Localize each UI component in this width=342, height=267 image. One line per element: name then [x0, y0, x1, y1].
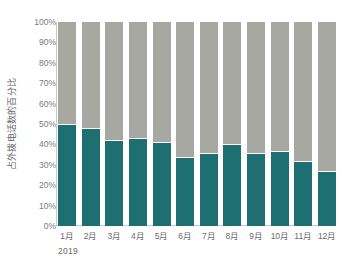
y-axis-tick-mark [52, 165, 56, 166]
bar-segment-teal[interactable] [200, 153, 218, 226]
x-axis-tick-label: 1月 [58, 229, 76, 243]
y-axis-tick-label: 60% [20, 99, 56, 109]
y-axis-tick-label: 80% [20, 58, 56, 68]
stacked-bar[interactable] [82, 22, 100, 226]
y-axis-tick-label: 10% [20, 201, 56, 211]
stacked-bar[interactable] [58, 22, 76, 226]
bar-segment-teal[interactable] [271, 151, 289, 226]
x-axis-tick-label: 3月 [105, 229, 123, 243]
bar-segment-gray[interactable] [105, 22, 123, 140]
truncated-title-strip [0, 0, 342, 8]
x-axis-tick-label: 2月 [82, 229, 100, 243]
x-axis-tick-labels: 1月2月3月4月5月6月7月8月9月10月11月12月 [58, 229, 336, 243]
bar-segment-teal[interactable] [247, 153, 265, 226]
stacked-bar[interactable] [176, 22, 194, 226]
bar-segment-gray[interactable] [129, 22, 147, 138]
y-axis-tick-label: 90% [20, 37, 56, 47]
stacked-bar[interactable] [153, 22, 171, 226]
y-axis-tick-labels: 0%10%20%30%40%50%60%70%80%90%100% [20, 22, 56, 226]
stacked-bar[interactable] [247, 22, 265, 226]
y-axis-tick-label: 70% [20, 78, 56, 88]
chart-container: 占外拨电话数的百分比 0%10%20%30%40%50%60%70%80%90%… [0, 0, 342, 267]
x-axis-tick-label: 7月 [200, 229, 218, 243]
y-axis-tick-mark [52, 124, 56, 125]
bar-group [58, 22, 336, 226]
y-axis-tick-label: 50% [20, 119, 56, 129]
plot-area [58, 22, 336, 226]
bar-segment-gray[interactable] [247, 22, 265, 153]
x-axis-tick-label: 4月 [129, 229, 147, 243]
stacked-bar[interactable] [105, 22, 123, 226]
bar-segment-gray[interactable] [271, 22, 289, 151]
y-axis-tick-mark [52, 63, 56, 64]
x-axis-tick-label: 9月 [247, 229, 265, 243]
bar-segment-teal[interactable] [318, 171, 336, 226]
x-axis-tick-label: 10月 [271, 229, 289, 243]
y-axis-tick-mark [52, 185, 56, 186]
stacked-bar[interactable] [294, 22, 312, 226]
x-axis-tick-label: 8月 [223, 229, 241, 243]
bar-segment-gray[interactable] [294, 22, 312, 161]
y-axis-line [56, 22, 57, 226]
bar-segment-teal[interactable] [294, 161, 312, 226]
y-axis-tick-label: 0% [20, 221, 56, 231]
stacked-bar[interactable] [129, 22, 147, 226]
y-axis-tick-mark [52, 83, 56, 84]
x-axis-tick-label: 6月 [176, 229, 194, 243]
stacked-bar[interactable] [223, 22, 241, 226]
bar-segment-teal[interactable] [105, 140, 123, 226]
bar-segment-gray[interactable] [200, 22, 218, 153]
bar-segment-gray[interactable] [223, 22, 241, 144]
bar-segment-gray[interactable] [82, 22, 100, 128]
y-axis-tick-label: 100% [20, 17, 56, 27]
bar-segment-gray[interactable] [153, 22, 171, 142]
y-axis-tick-mark [52, 226, 56, 227]
bar-segment-teal[interactable] [153, 142, 171, 226]
bar-segment-teal[interactable] [129, 138, 147, 226]
bar-segment-gray[interactable] [318, 22, 336, 171]
y-axis-title: 占外拨电话数的百分比 [4, 22, 18, 226]
bar-segment-teal[interactable] [223, 144, 241, 226]
bar-segment-teal[interactable] [58, 124, 76, 226]
y-axis-tick-mark [52, 206, 56, 207]
y-axis-tick-mark [52, 144, 56, 145]
x-axis-tick-label: 11月 [294, 229, 312, 243]
x-axis-group-label: 2019 [58, 246, 78, 256]
bar-segment-gray[interactable] [58, 22, 76, 124]
stacked-bar[interactable] [200, 22, 218, 226]
stacked-bar[interactable] [318, 22, 336, 226]
y-axis-tick-mark [52, 104, 56, 105]
y-axis-tick-mark [52, 22, 56, 23]
y-axis-tick-label: 20% [20, 180, 56, 190]
bar-segment-gray[interactable] [176, 22, 194, 157]
bar-segment-teal[interactable] [82, 128, 100, 226]
stacked-bar[interactable] [271, 22, 289, 226]
x-axis-tick-label: 5月 [153, 229, 171, 243]
x-axis-tick-label: 12月 [318, 229, 336, 243]
y-axis-tick-mark [52, 42, 56, 43]
bar-segment-teal[interactable] [176, 157, 194, 226]
y-axis-tick-label: 30% [20, 160, 56, 170]
y-axis-tick-label: 40% [20, 139, 56, 149]
